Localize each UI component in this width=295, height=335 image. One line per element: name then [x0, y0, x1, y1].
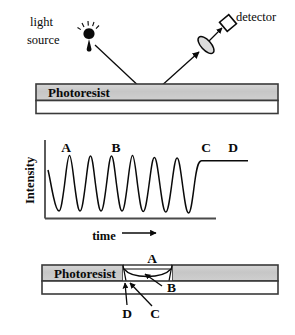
chart-annotation-d: D	[228, 140, 238, 155]
detector-box-icon	[220, 15, 237, 32]
label-b: B	[167, 280, 176, 295]
intensity-chart: Intensity time A B C D	[23, 140, 248, 243]
figure-svg: light source	[0, 0, 295, 335]
chart-annotation-b: B	[111, 140, 120, 155]
lens-to-sensor-arrow	[209, 28, 222, 41]
substrate-layer	[36, 101, 278, 114]
chart-annotation-c: C	[201, 140, 211, 155]
label-a: A	[147, 251, 157, 266]
bottom-diagram: Photoresist A B C D	[42, 251, 278, 321]
top-diagram: light source	[27, 10, 278, 114]
figure-root: light source	[0, 0, 295, 335]
intensity-trace	[48, 156, 248, 214]
photoresist-label-top: Photoresist	[48, 85, 111, 100]
light-source-label-line1: light	[30, 15, 53, 29]
label-d: D	[122, 306, 132, 321]
resist-block-right	[172, 265, 278, 281]
label-c: C	[150, 306, 160, 321]
chart-xlabel: time	[92, 229, 116, 243]
chart-annotation-a: A	[61, 140, 71, 155]
light-source-label-line2: source	[27, 33, 60, 47]
detector-label: detector	[236, 10, 277, 24]
photoresist-label-bottom: Photoresist	[54, 266, 117, 281]
lightbulb-icon	[78, 21, 100, 52]
chart-ylabel: Intensity	[23, 156, 37, 204]
substrate-layer-bottom	[42, 281, 278, 294]
